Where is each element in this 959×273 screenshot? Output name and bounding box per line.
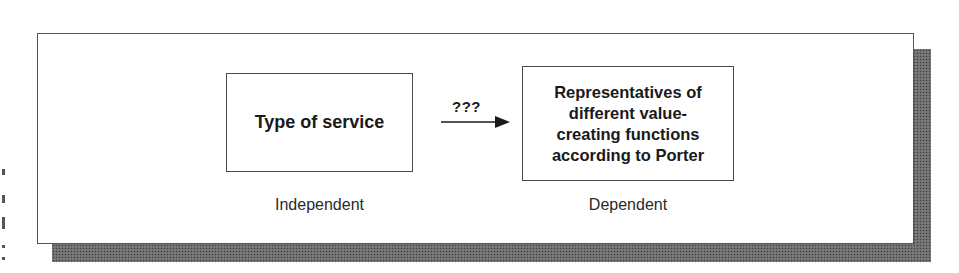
dependent-line-1: Representatives of: [554, 82, 702, 103]
dependent-variable-box: Representatives of different value- crea…: [522, 66, 734, 181]
independent-variable-label: Type of service: [255, 112, 385, 133]
arrow-right-icon: [441, 112, 511, 132]
dependent-line-4: according to Porter: [552, 145, 704, 166]
dependent-line-3: creating functions: [556, 124, 699, 145]
dependent-line-2: different value-: [569, 103, 687, 124]
diagram-frame: [37, 33, 914, 244]
independent-caption: Independent: [226, 196, 413, 214]
cropped-text-fragments: [0, 165, 8, 265]
independent-variable-box: Type of service: [226, 73, 413, 172]
dependent-caption: Dependent: [522, 196, 734, 214]
